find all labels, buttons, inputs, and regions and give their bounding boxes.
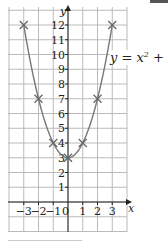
y-tick-label: 11 xyxy=(51,34,65,47)
y-tick-label: 5 xyxy=(58,122,65,135)
y-tick-label: 6 xyxy=(58,108,65,121)
y-tick-label: 2 xyxy=(58,167,65,180)
x-tick-label: 3 xyxy=(109,205,116,218)
equation-label: y = x2 + 3 xyxy=(110,50,168,65)
parabola-chart: xy123456789101112−3−2−10123 xyxy=(0,0,168,242)
x-tick-label: 1 xyxy=(79,205,86,218)
x-tick-label: 2 xyxy=(94,205,101,218)
x-tick-label: 0 xyxy=(62,205,69,218)
bottom-rule xyxy=(8,240,82,241)
y-tick-label: 4 xyxy=(58,137,65,150)
y-tick-label: 12 xyxy=(51,19,65,32)
y-tick-label: 7 xyxy=(58,93,65,106)
y-tick-label: 10 xyxy=(51,49,65,62)
y-tick-label: 3 xyxy=(58,152,65,165)
y-tick-label: 1 xyxy=(58,181,65,194)
x-axis-label: x xyxy=(128,202,135,215)
y-axis-label: y xyxy=(59,5,67,18)
y-tick-label: 9 xyxy=(58,63,65,76)
y-tick-label: 8 xyxy=(58,78,65,91)
x-tick-label: −1 xyxy=(45,205,61,218)
